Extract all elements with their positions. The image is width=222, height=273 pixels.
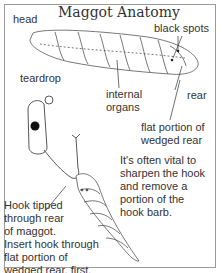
maggot-body: [30, 30, 198, 74]
teardrop-jig: [28, 96, 80, 178]
maggot-anatomy-diagram: Maggot Anatomy head black spots teardrop…: [0, 0, 222, 273]
label-organs: organs: [106, 101, 140, 114]
label-flat-portion: flat portion of: [141, 121, 205, 134]
page-title: Maggot Anatomy: [58, 4, 180, 20]
label-internal: internal: [106, 88, 142, 101]
label-head: head: [13, 13, 37, 26]
label-rear: rear: [187, 89, 207, 102]
label-teardrop: teardrop: [20, 72, 61, 85]
label-black-spots: black spots: [154, 22, 209, 35]
label-wedged-rear: wedged rear: [141, 134, 202, 147]
